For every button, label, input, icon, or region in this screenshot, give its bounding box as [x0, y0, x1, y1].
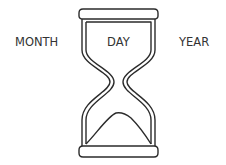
day-label: DAY — [107, 36, 130, 49]
month-label: MONTH — [15, 36, 58, 49]
year-label: YEAR — [179, 36, 209, 49]
hourglass-icon — [0, 0, 226, 165]
